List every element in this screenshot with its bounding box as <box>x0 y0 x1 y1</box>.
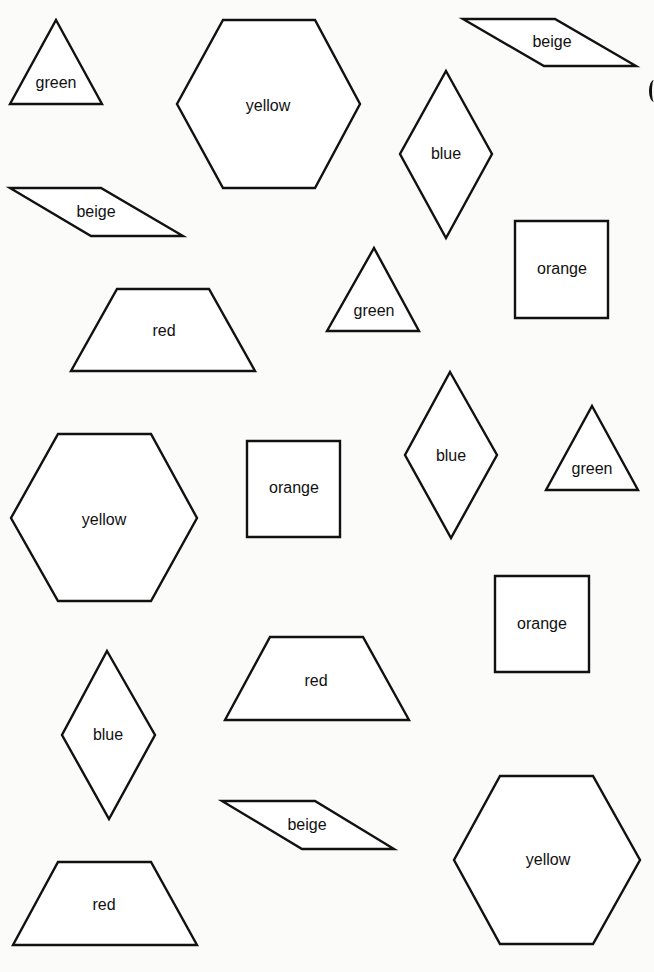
shape-label: orange <box>269 480 319 496</box>
shape-label: beige <box>532 34 571 50</box>
shape-label: green <box>354 303 395 319</box>
shape-worksheet: greenyellowbeigebluebeigeorangegreenredb… <box>0 0 654 972</box>
shape-label: red <box>152 323 175 339</box>
triangle-shape-green <box>10 20 102 104</box>
shape-label: orange <box>517 616 567 632</box>
shape-outlines-layer <box>0 0 654 972</box>
shape-label: orange <box>537 261 587 277</box>
triangle-shape-green <box>546 406 638 490</box>
shape-label: blue <box>436 448 466 464</box>
shape-label: beige <box>287 817 326 833</box>
shape-label: red <box>92 897 115 913</box>
shape-label: green <box>36 75 77 91</box>
cropped-edge-mark <box>649 80 654 102</box>
shape-label: blue <box>431 146 461 162</box>
shape-label: beige <box>76 204 115 220</box>
shape-label: yellow <box>246 98 290 114</box>
shape-label: yellow <box>82 512 126 528</box>
shape-label: blue <box>93 727 123 743</box>
shape-label: yellow <box>526 852 570 868</box>
shape-label: red <box>304 673 327 689</box>
shape-label: green <box>572 461 613 477</box>
